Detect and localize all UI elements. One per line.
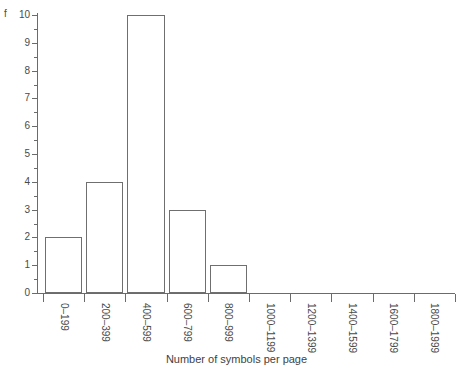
y-tick-major xyxy=(32,15,37,16)
y-tick-major xyxy=(32,182,37,183)
y-tick-label: 5 xyxy=(4,149,30,159)
y-tick-minor xyxy=(34,57,37,58)
bar xyxy=(45,237,82,293)
y-tick-label: 1 xyxy=(4,260,30,270)
y-tick-minor xyxy=(34,224,37,225)
x-tick xyxy=(125,294,126,302)
y-tick-major xyxy=(32,126,37,127)
x-category-label: 1400–1599 xyxy=(347,303,357,353)
y-tick-major xyxy=(32,43,37,44)
y-tick-label: 10 xyxy=(4,10,30,20)
x-category-label: 1200–1399 xyxy=(306,303,316,353)
y-tick-minor xyxy=(34,251,37,252)
x-tick xyxy=(455,294,456,302)
x-category-label: 600–799 xyxy=(182,303,192,342)
y-tick-minor xyxy=(34,85,37,86)
histogram-chart: f 012345678910 0–199200–399400–599600–79… xyxy=(0,0,473,378)
x-axis-line xyxy=(37,293,455,294)
x-tick xyxy=(249,294,250,302)
y-tick-minor xyxy=(34,196,37,197)
x-category-label: 1600–1799 xyxy=(388,303,398,353)
y-tick-major xyxy=(32,154,37,155)
x-tick xyxy=(43,294,44,302)
y-tick-major xyxy=(32,293,37,294)
y-tick-minor xyxy=(34,168,37,169)
x-axis-title: Number of symbols per page xyxy=(0,353,473,366)
y-tick-label: 7 xyxy=(4,93,30,103)
bar xyxy=(210,265,247,293)
y-tick-label: 2 xyxy=(4,232,30,242)
y-tick-label: 9 xyxy=(4,38,30,48)
y-tick-major xyxy=(32,71,37,72)
bar xyxy=(127,15,164,293)
y-tick-label: 6 xyxy=(4,121,30,131)
y-tick-minor xyxy=(34,29,37,30)
x-category-label: 1800–1999 xyxy=(429,303,439,353)
x-tick xyxy=(331,294,332,302)
x-tick xyxy=(167,294,168,302)
x-tick xyxy=(84,294,85,302)
y-tick-label: 0 xyxy=(4,288,30,298)
x-category-label: 200–399 xyxy=(100,303,110,342)
y-tick-minor xyxy=(34,140,37,141)
x-category-label: 1000–1199 xyxy=(265,303,275,352)
y-tick-major xyxy=(32,210,37,211)
y-axis-line xyxy=(37,13,38,294)
y-tick-major xyxy=(32,265,37,266)
x-tick xyxy=(414,294,415,302)
y-tick-label: 4 xyxy=(4,177,30,187)
y-tick-minor xyxy=(34,112,37,113)
y-tick-label: 3 xyxy=(4,205,30,215)
bar xyxy=(86,182,123,293)
x-category-label: 0–199 xyxy=(59,303,69,331)
y-tick-major xyxy=(32,237,37,238)
y-tick-label: 8 xyxy=(4,66,30,76)
x-tick xyxy=(290,294,291,302)
y-tick-major xyxy=(32,98,37,99)
x-tick xyxy=(208,294,209,302)
x-category-label: 800–999 xyxy=(223,303,233,342)
y-tick-minor xyxy=(34,279,37,280)
x-category-label: 400–599 xyxy=(141,303,151,342)
bar xyxy=(169,210,206,293)
x-tick xyxy=(373,294,374,302)
